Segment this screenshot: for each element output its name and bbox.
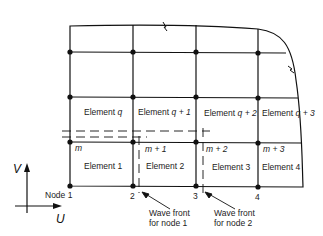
element-4-label: Element 4: [262, 162, 301, 172]
element-q-label: Element q: [84, 107, 123, 117]
axis-v-label: V: [13, 162, 22, 176]
row-node-m3: m + 3: [263, 144, 285, 154]
node-3-label: 3: [193, 191, 198, 201]
element-2-label: Element 2: [146, 161, 185, 171]
element-q1-label: Element q + 1: [138, 107, 191, 117]
wave-front-2-line2: for node 2: [214, 218, 253, 228]
axis-u-label: U: [56, 212, 65, 226]
grid-row-3: [70, 142, 302, 143]
finite-element-mesh-diagram: Element q Element q + 1 Element q + 2 El…: [0, 0, 323, 236]
grid-row-2: [70, 97, 298, 98]
element-1-label: Element 1: [84, 161, 123, 171]
wave-front-2-line1: Wave front: [214, 208, 255, 218]
row-node-m: m: [75, 143, 82, 153]
node-1-label: Node 1: [45, 190, 73, 200]
node-2-label: 2: [130, 191, 135, 201]
break-mark-top: [163, 22, 167, 31]
element-q3-label: Element q + 3: [262, 108, 315, 118]
element-3-label: Element 3: [212, 162, 251, 172]
wave-front-1-line1: Wave front: [149, 208, 190, 218]
wave-front-arrows: [142, 192, 235, 209]
break-mark-right: [288, 66, 294, 73]
grid-row-1: [70, 52, 286, 53]
element-q2-label: Element q + 2: [204, 108, 257, 118]
row-node-m2: m + 2: [206, 144, 228, 154]
node-4-label: 4: [255, 192, 260, 202]
uv-axes: [15, 163, 62, 213]
row-node-m1: m + 1: [145, 144, 167, 154]
wave-front-1-line2: for node 1: [149, 218, 188, 228]
